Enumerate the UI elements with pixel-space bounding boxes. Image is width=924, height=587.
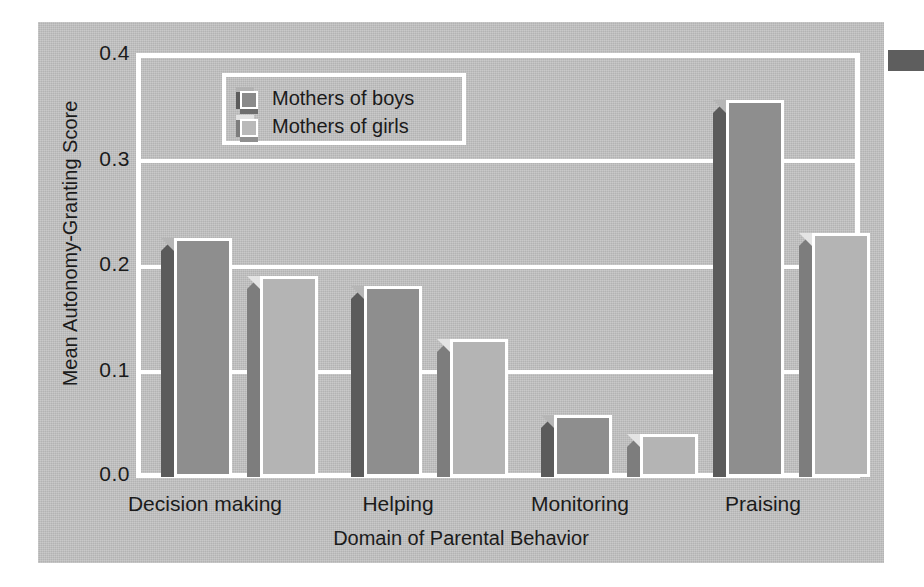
x-tick-label-helping: Helping (318, 492, 478, 516)
bar-side-face (799, 233, 812, 477)
bar-front-face (174, 238, 232, 477)
y-axis-tick-labels: 0.4 0.3 0.2 0.1 0.0 (38, 22, 130, 563)
bar-side-face (247, 276, 260, 477)
legend-entry-boys[interactable]: Mothers of boys (236, 83, 414, 113)
swatch-front-face (240, 119, 258, 137)
bar-side-face (161, 238, 174, 477)
bar-front-face (726, 100, 784, 477)
y-tick-label-0.4: 0.4 (72, 41, 130, 65)
legend-entry-girls[interactable]: Mothers of girls (236, 111, 409, 141)
swatch-bottom-face (240, 137, 258, 142)
bar-front-face (554, 415, 612, 477)
y-tick-label-0.3: 0.3 (72, 147, 130, 171)
bar-side-face (437, 339, 450, 477)
bar-decision-making-boys[interactable] (174, 238, 232, 477)
bar-front-face (812, 233, 870, 477)
x-tick-label-decision-making: Decision making (100, 492, 310, 516)
bar-monitoring-boys[interactable] (554, 415, 612, 477)
x-axis-title: Domain of Parental Behavior (38, 527, 884, 550)
legend-label-boys: Mothers of boys (272, 87, 414, 110)
x-tick-label-monitoring: Monitoring (490, 492, 670, 516)
y-tick-label-0.2: 0.2 (72, 252, 130, 276)
bar-decision-making-girls[interactable] (260, 276, 318, 477)
y-tick-label-0.0: 0.0 (72, 462, 130, 486)
bar-helping-boys[interactable] (364, 286, 422, 477)
bar-monitoring-girls[interactable] (640, 434, 698, 477)
figure-root: Mean Autonomy-Granting Score 0.4 0.3 0.2… (0, 0, 924, 587)
bar-praising-girls[interactable] (812, 233, 870, 477)
bar-helping-girls[interactable] (450, 339, 508, 477)
bar-front-face (260, 276, 318, 477)
bar-front-face (364, 286, 422, 477)
bar-side-face (713, 100, 726, 477)
bar-side-face (351, 286, 364, 477)
chart-panel: Mean Autonomy-Granting Score 0.4 0.3 0.2… (38, 22, 884, 563)
x-tick-label-praising: Praising (678, 492, 848, 516)
chart-legend[interactable]: Mothers of boys Mothers of girls (222, 73, 466, 145)
y-tick-label-0.1: 0.1 (72, 358, 130, 382)
legend-swatch-boys-icon (236, 87, 258, 109)
legend-swatch-girls-icon (236, 115, 258, 137)
bar-front-face (640, 434, 698, 477)
bar-praising-boys[interactable] (726, 100, 784, 477)
page-edge-artifact (888, 50, 924, 71)
swatch-front-face (240, 91, 258, 109)
legend-label-girls: Mothers of girls (272, 115, 409, 138)
bar-front-face (450, 339, 508, 477)
